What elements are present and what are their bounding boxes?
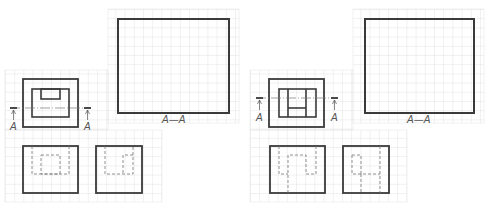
grid-panel-section [108,9,239,123]
section-label: A—A [406,114,431,125]
cut-label-left: A [9,121,17,132]
drawing-canvas: A—A A A [0,0,487,209]
grid-panel-lower-views [5,130,162,202]
cut-label-right: A [330,112,338,123]
cut-label-left: A [255,112,263,123]
grid-panel-section [353,9,484,123]
cut-label-right: A [83,121,91,132]
section-label: A—A [161,114,186,125]
figure-right: A—A A A [250,9,484,202]
figure-left: A—A A A [5,9,239,202]
grid-panel-lower-views [250,130,407,202]
